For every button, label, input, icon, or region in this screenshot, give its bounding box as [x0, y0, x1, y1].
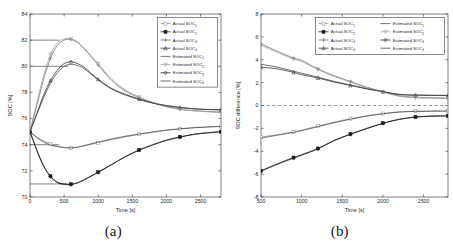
x-axis-title: Time [s]	[116, 207, 136, 213]
panel-a: 050010001500200025007072747678808284Time…	[0, 0, 227, 242]
y-tick-label: 78	[22, 89, 28, 95]
y-axis-title: SOC [%]	[7, 94, 13, 116]
x-tick-label: 2500	[195, 198, 207, 204]
panel-b-caption: (b)	[227, 223, 453, 240]
x-axis-title: Time [s]	[344, 207, 364, 213]
y-tick-label: -8	[253, 194, 258, 200]
x-tick-label: 0	[29, 198, 32, 204]
y-tick-label: 72	[22, 168, 28, 174]
y-tick-label: -6	[253, 171, 258, 177]
y-tick-label: 74	[22, 142, 28, 148]
figure-container: 050010001500200025007072747678808284Time…	[0, 0, 453, 242]
x-tick-label: 2500	[417, 198, 429, 204]
y-axis-title: SOC difference [%]	[235, 81, 241, 129]
y-tick-label: 2	[255, 80, 258, 86]
x-tick-label: 500	[60, 198, 69, 204]
y-tick-label: 4	[255, 57, 258, 63]
panel-a-plot: 050010001500200025007072747678808284Time…	[0, 0, 227, 242]
panel-b-plot: 5001000150020002500-8-6-4-202468Time [s]…	[227, 0, 453, 242]
panel-b: 5001000150020002500-8-6-4-202468Time [s]…	[227, 0, 453, 242]
y-tick-label: -2	[253, 125, 258, 131]
y-tick-label: 6	[255, 34, 258, 40]
y-tick-label: 70	[22, 194, 28, 200]
panel-a-caption: (a)	[0, 223, 227, 240]
y-tick-label: 0	[255, 102, 258, 108]
x-tick-label: 2000	[161, 198, 173, 204]
y-tick-label: 76	[22, 115, 28, 121]
y-tick-label: -4	[253, 148, 258, 154]
y-tick-label: 82	[22, 37, 28, 43]
x-tick-label: 1500	[336, 198, 348, 204]
x-tick-label: 1000	[92, 198, 104, 204]
y-tick-label: 8	[255, 11, 258, 17]
legend-box	[158, 18, 218, 88]
x-tick-label: 1000	[295, 198, 307, 204]
x-tick-label: 2000	[377, 198, 389, 204]
y-tick-label: 80	[22, 63, 28, 69]
x-tick-label: 1500	[127, 198, 139, 204]
y-tick-label: 84	[22, 11, 28, 17]
